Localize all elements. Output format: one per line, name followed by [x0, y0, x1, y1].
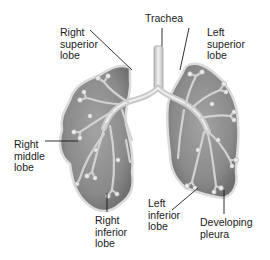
label-right-middle-lobe: Right middle lobe [14, 139, 45, 174]
trachea [154, 46, 163, 90]
label-developing-pleura: Developing pleura [200, 217, 253, 240]
label-trachea: Trachea [145, 13, 183, 25]
right-lung [60, 66, 133, 211]
label-right-inferior-lobe: Right inferior lobe [95, 215, 127, 250]
label-left-superior-lobe: Left superior lobe [207, 27, 245, 62]
lung-diagram: Right superior lobe Trachea Left superio… [0, 0, 270, 260]
label-right-superior-lobe: Right superior lobe [60, 27, 98, 62]
left-lung [167, 64, 238, 198]
label-left-inferior-lobe: Left inferior lobe [148, 198, 180, 233]
